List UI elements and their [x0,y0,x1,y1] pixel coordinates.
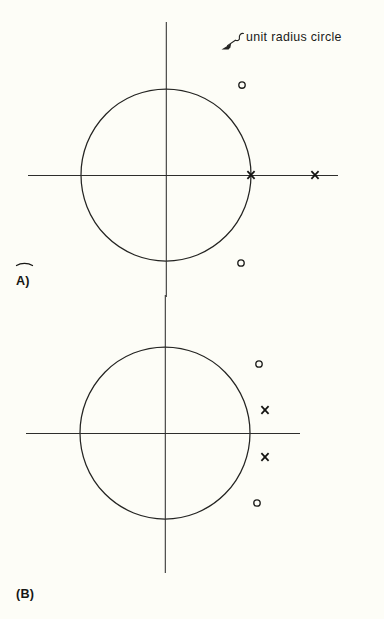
zero-marker-lower-a [238,260,244,266]
panel-b [26,295,300,573]
panel-label-a: A) [16,274,30,288]
zero-marker-lower-b [254,500,260,506]
pole-marker-lower-b [261,453,268,461]
callout-label: unit radius circle [246,30,342,44]
panel-a-overbar [17,263,33,265]
callout-arrow-icon [222,44,232,50]
panel-a [17,22,339,297]
pole-marker-upper-b [261,406,268,414]
figure-canvas: unit radius circle A) (B) [0,0,384,619]
panel-label-b: (B) [16,587,34,601]
zero-marker-upper-b [256,361,262,367]
zero-marker-upper-a [239,82,245,88]
callout-leader-line [228,33,244,45]
figure-page: unit radius circle A) (B) [0,0,384,619]
